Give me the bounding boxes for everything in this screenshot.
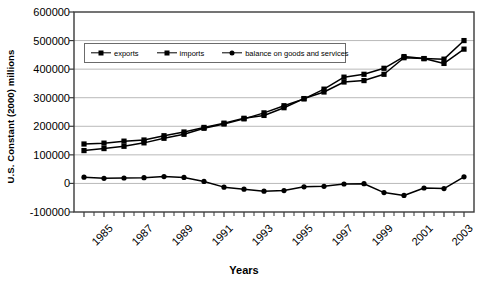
data-point [401, 193, 406, 198]
data-point [301, 184, 306, 189]
legend-label: balance on goods and services [245, 49, 348, 58]
data-point [361, 181, 366, 186]
data-point [81, 141, 86, 146]
data-point [421, 56, 426, 61]
data-point [361, 78, 366, 83]
x-axis-title: Years [0, 264, 488, 276]
data-point [401, 54, 406, 59]
chart-container: U.S. Constant (2000) millions 6000005000… [0, 0, 488, 288]
data-point [461, 38, 466, 43]
legend-marker-icon [164, 51, 169, 56]
data-point [341, 75, 346, 80]
legend-marker-icon [99, 51, 104, 56]
data-point [261, 189, 266, 194]
data-point [221, 121, 226, 126]
data-point [81, 175, 86, 180]
data-point [461, 47, 466, 52]
chart-legend: exportsimportsbalance on goods and servi… [84, 43, 346, 63]
legend-swatch-icon [91, 49, 111, 57]
data-point [141, 175, 146, 180]
data-point [101, 146, 106, 151]
data-point [221, 185, 226, 190]
data-point [201, 126, 206, 131]
series-line-1 [84, 49, 464, 150]
legend-marker-icon [230, 51, 235, 56]
data-point [381, 72, 386, 77]
data-point [181, 132, 186, 137]
data-point [341, 181, 346, 186]
data-point [341, 79, 346, 84]
legend-swatch-icon [157, 49, 177, 57]
legend-item-1: imports [157, 49, 205, 58]
data-point [141, 140, 146, 145]
data-point [321, 184, 326, 189]
legend-item-2: balance on goods and services [222, 49, 348, 58]
data-point [81, 148, 86, 153]
data-point [161, 136, 166, 141]
data-point [461, 174, 466, 179]
data-point [441, 61, 446, 66]
data-point [281, 103, 286, 108]
legend-label: exports [114, 49, 139, 58]
data-point [181, 175, 186, 180]
data-point [101, 176, 106, 181]
data-point [301, 96, 306, 101]
data-point [121, 144, 126, 149]
legend-item-0: exports [91, 49, 139, 58]
data-point [101, 141, 106, 146]
legend-label: imports [180, 49, 205, 58]
data-point [321, 87, 326, 92]
series-line-2 [84, 177, 464, 196]
data-point [121, 139, 126, 144]
data-point [421, 185, 426, 190]
legend-swatch-icon [222, 49, 242, 57]
data-point [241, 187, 246, 192]
data-point [281, 188, 286, 193]
data-point [241, 116, 246, 121]
data-point [261, 110, 266, 115]
data-point [381, 66, 386, 71]
data-point [121, 175, 126, 180]
data-point [161, 174, 166, 179]
data-point [441, 186, 446, 191]
data-point [381, 190, 386, 195]
data-point [361, 72, 366, 77]
data-point [201, 179, 206, 184]
